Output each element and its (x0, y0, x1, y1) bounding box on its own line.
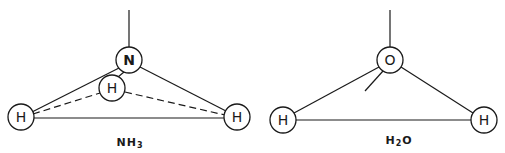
nh3-molecule: N H H H NH3 (8, 10, 250, 150)
atom-label-h: H (107, 80, 118, 96)
h2o-molecule: O H H H2O (270, 10, 497, 148)
h2o-lone-pair-stub (365, 71, 383, 91)
h2o-formula-label: H2O (385, 134, 412, 148)
atom-hydrogen-back: H (99, 75, 125, 101)
atom-label-o: O (384, 52, 395, 68)
atom-label-h: H (232, 109, 243, 125)
atom-hydrogen-left: H (8, 104, 34, 130)
atom-label-h: H (278, 112, 289, 128)
atom-oxygen: O (377, 47, 403, 73)
atom-hydrogen-right: H (224, 104, 250, 130)
molecule-geometry-diagram: N H H H NH3 O H H (0, 0, 505, 153)
nh3-formula-label: NH3 (117, 136, 144, 150)
nh3-dashed-edge-left (33, 93, 100, 114)
atom-hydrogen-right: H (471, 107, 497, 133)
atom-hydrogen-left: H (270, 107, 296, 133)
atom-label-h: H (479, 112, 490, 128)
atom-label-n: N (123, 52, 135, 68)
atom-nitrogen: N (116, 47, 142, 73)
nh3-bond-n-right-h (140, 67, 226, 111)
h2o-bond-o-right-h (401, 67, 473, 113)
atom-label-h: H (16, 109, 27, 125)
nh3-dashed-edge-right (125, 92, 225, 115)
